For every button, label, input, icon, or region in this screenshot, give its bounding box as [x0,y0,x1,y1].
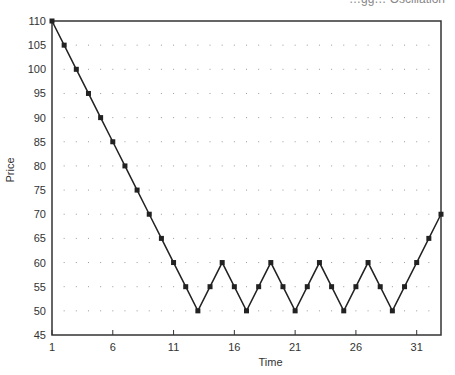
grid-dot [64,238,65,239]
grid-dot [428,262,429,263]
grid-dot [222,69,223,70]
data-point-marker [135,188,140,193]
grid-dot [124,310,125,311]
grid-dot [295,117,296,118]
grid-dot [149,117,150,118]
grid-dot [222,310,223,311]
grid-dot [210,93,211,94]
grid-dot [149,262,150,263]
grid-dot [185,117,186,118]
grid-dot [404,93,405,94]
grid-dot [149,45,150,46]
x-axis-title: Time [258,356,282,368]
grid-dot [76,262,77,263]
data-point-marker [50,19,55,24]
grid-dot [428,165,429,166]
y-tick-label: 80 [34,160,46,172]
price-line-chart: 1611162126314550556065707580859095100105… [0,0,455,375]
grid-dot [282,310,283,311]
grid-dot [100,190,101,191]
grid-dot [161,69,162,70]
data-point-marker [329,284,334,289]
grid-dot [368,141,369,142]
grid-dot [404,165,405,166]
grid-dot [197,165,198,166]
grid-dot [246,141,247,142]
grid-dot [124,214,125,215]
x-tick-label: 16 [228,341,240,353]
grid-dot [88,141,89,142]
grid-dot [197,141,198,142]
grid-dot [197,262,198,263]
grid-dot [392,117,393,118]
grid-dot [100,141,101,142]
grid-dot [392,165,393,166]
grid-dot [295,45,296,46]
grid-dot [234,190,235,191]
data-point-marker [366,260,371,265]
grid-dot [282,238,283,239]
grid-dot [210,214,211,215]
grid-dot [234,117,235,118]
grid-dot [380,310,381,311]
grid-dot [307,93,308,94]
grid-dot [185,45,186,46]
grid-dot [368,286,369,287]
y-tick-label: 90 [34,112,46,124]
data-point-marker [426,236,431,241]
grid-dot [185,93,186,94]
grid-dot [161,262,162,263]
grid-dot [88,286,89,287]
grid-dot [343,141,344,142]
grid-dot [355,141,356,142]
grid-dot [416,45,417,46]
grid-dot [270,190,271,191]
grid-dot [355,117,356,118]
grid-dot [270,45,271,46]
grid-dot [185,238,186,239]
grid-dot [368,165,369,166]
grid-dot [100,286,101,287]
grid-dot [197,69,198,70]
x-tick-label: 21 [289,341,301,353]
grid-dot [295,262,296,263]
grid-dot [76,214,77,215]
grid-dot [100,214,101,215]
grid-dot [64,141,65,142]
grid-dot [137,165,138,166]
grid-dot [173,190,174,191]
grid-dot [124,117,125,118]
grid-dot [295,69,296,70]
grid-dot [185,190,186,191]
grid-dot [258,310,259,311]
grid-dot [368,238,369,239]
y-tick-label: 75 [34,184,46,196]
grid-dot [319,141,320,142]
data-point-marker [86,91,91,96]
grid-dot [331,238,332,239]
grid-dot [246,238,247,239]
data-point-marker [293,308,298,313]
data-point-marker [147,212,152,217]
grid-dot [137,69,138,70]
grid-dot [149,310,150,311]
y-tick-label: 110 [28,15,46,27]
grid-dot [428,286,429,287]
grid-dot [270,286,271,287]
grid-dot [282,69,283,70]
grid-dot [270,238,271,239]
grid-dot [112,93,113,94]
grid-dot [282,262,283,263]
grid-dot [246,165,247,166]
grid-dot [149,141,150,142]
grid-dot [234,214,235,215]
data-point-marker [110,139,115,144]
grid-dot [355,214,356,215]
grid-dot [428,141,429,142]
grid-dot [234,165,235,166]
grid-dot [355,238,356,239]
grid-dot [307,310,308,311]
grid-dot [380,262,381,263]
grid-dot [173,117,174,118]
grid-dot [331,117,332,118]
